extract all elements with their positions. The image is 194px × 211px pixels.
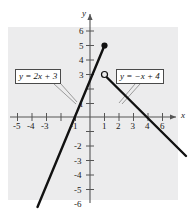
x-tick-label--1: -1 <box>70 121 78 131</box>
callout-right-equation: y = −x + 4 <box>116 69 164 84</box>
y-tick-label--6: -6 <box>74 199 82 209</box>
open-endpoint-circle <box>102 72 108 78</box>
x-axis-arrow <box>170 114 176 119</box>
y-tick-label-4: 4 <box>79 55 84 65</box>
x-tick-label--4: -4 <box>27 121 35 131</box>
x-tick-label-4: 4 <box>145 121 150 131</box>
callout-left-equation: y = 2x + 3 <box>15 69 61 84</box>
y-tick-label--3: -3 <box>74 156 82 166</box>
y-tick-label--2: -2 <box>74 141 82 151</box>
y-tick-label-6: 6 <box>79 26 84 36</box>
x-tick-label-3: 3 <box>131 121 136 131</box>
y-tick-label-1: 1 <box>79 99 84 109</box>
y-tick-label-5: 5 <box>79 41 84 51</box>
closed-endpoint-dot <box>101 42 107 48</box>
coordinate-plane <box>0 0 194 211</box>
y-axis-arrow <box>87 14 92 20</box>
x-tick-label--5: -5 <box>13 121 21 131</box>
y-tick-label--5: -5 <box>74 185 82 195</box>
x-tick-label-6: 6 <box>160 121 165 131</box>
graph-figure: y x -5 -4 -3 -1 1 2 3 4 6 6 5 4 3 1 -2 -… <box>0 0 194 211</box>
y-tick-label-3: 3 <box>79 70 84 80</box>
x-tick-label-2: 2 <box>116 121 121 131</box>
y-tick-label--4: -4 <box>74 170 82 180</box>
x-tick-label-1: 1 <box>102 121 107 131</box>
x-tick-label--3: -3 <box>41 121 49 131</box>
callout-leader-left <box>54 84 77 104</box>
y-axis-label: y <box>82 8 86 18</box>
x-axis-label: x <box>181 110 185 120</box>
